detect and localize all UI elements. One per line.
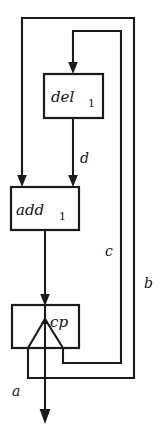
edge-a-output [40, 348, 51, 424]
node-cp[interactable]: cp [12, 305, 79, 348]
node-add1[interactable]: add 1 [11, 187, 79, 230]
arrowhead-d-into-add [68, 175, 78, 187]
del1-label: del [51, 88, 74, 106]
diagram-canvas: del 1 add 1 cp d c b a [0, 0, 160, 435]
edge-add-to-cp [40, 230, 50, 306]
edge-d-forward [68, 118, 78, 187]
arrowhead-b-into-add [17, 175, 27, 187]
node-del1[interactable]: del 1 [44, 74, 103, 118]
add1-subscript: 1 [59, 210, 66, 223]
add1-label: add [16, 201, 44, 219]
edge-label-d: d [80, 150, 89, 166]
edge-label-c: c [105, 243, 113, 259]
dataflow-diagram: del 1 add 1 cp d c b a [0, 0, 160, 435]
arrowhead-c-into-del [68, 62, 78, 74]
edge-label-a: a [12, 383, 20, 399]
del1-subscript: 1 [88, 97, 95, 110]
cp-label: cp [50, 313, 68, 331]
arrowhead-a-output [40, 409, 51, 424]
edge-label-b: b [144, 275, 153, 291]
